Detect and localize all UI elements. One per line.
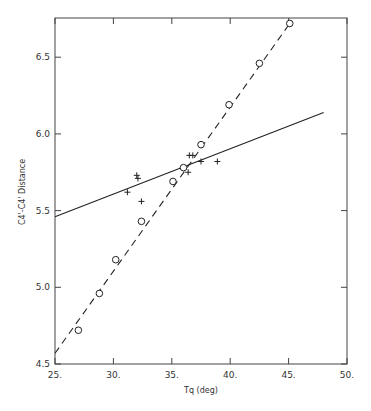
circle-point [170,178,177,185]
circle-point [75,327,82,334]
fit-lines [55,23,324,353]
circle-point [96,290,103,297]
y-axis-title: C4'-C4' Distance [18,159,27,225]
y-tick-label: 6.0 [36,129,51,139]
x-tick-label: 35. [165,370,179,380]
x-axis-title: Tq (deg) [183,386,218,395]
y-tick-label: 6.5 [36,52,50,62]
cross-point [124,189,130,195]
circles-fit-line [55,23,290,353]
axis-ticks: 25.30.35.40.45.50.4.55.05.56.06.5 [36,18,354,380]
x-tick-label: 50. [340,370,354,380]
circle-point [286,20,293,27]
cross-point [134,172,140,178]
x-tick-label: 45. [281,370,295,380]
data-points [75,20,293,333]
crosses-fit-line [55,112,324,216]
x-tick-label: 40. [223,370,237,380]
circle-point [138,218,145,225]
cross-point [135,175,141,181]
circle-point [226,101,233,108]
circle-point [180,164,187,171]
y-tick-label: 5.5 [36,206,50,216]
cross-point [214,159,220,165]
plot-frame [55,18,347,364]
y-tick-label: 4.5 [36,359,50,369]
circle-point [256,60,263,67]
y-tick-label: 5.0 [36,282,51,292]
cross-point [138,198,144,204]
circle-point [112,256,119,263]
x-tick-label: 30. [106,370,120,380]
circle-point [198,141,205,148]
x-tick-label: 25. [48,370,62,380]
scatter-chart: 25.30.35.40.45.50.4.55.05.56.06.5 Tq (de… [0,0,371,411]
